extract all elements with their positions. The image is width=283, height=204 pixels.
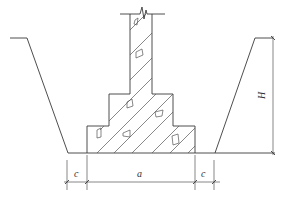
label-right-clearance: c <box>201 168 206 179</box>
foundation <box>87 0 200 155</box>
dimension-vertical: H <box>256 36 275 155</box>
foundation-outline <box>87 14 195 153</box>
label-base-width: a <box>137 168 142 179</box>
label-left-clearance: c <box>74 168 79 179</box>
foundation-diagram: c a c H <box>0 0 283 204</box>
trench-slope-left <box>10 38 68 153</box>
label-depth: H <box>256 91 267 100</box>
hatch-pattern <box>95 0 200 155</box>
dimension-horizontal: c a c <box>64 155 220 190</box>
